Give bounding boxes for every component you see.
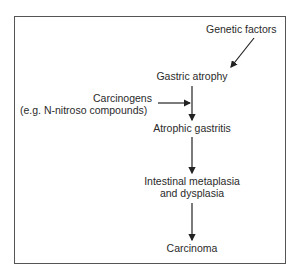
arrows — [0, 0, 300, 277]
node-gastric-atrophy: Gastric atrophy — [142, 70, 242, 82]
node-carcinogens-example: (e.g. N-nitroso compounds) — [20, 104, 147, 116]
node-carcinoma: Carcinoma — [142, 242, 242, 254]
node-carcinogens: Carcinogens — [93, 92, 152, 104]
arrow-genetic-to-atrophy — [231, 38, 254, 67]
node-intestinal-metaplasia: Intestinal metaplasia — [132, 175, 252, 187]
node-genetic-factors: Genetic factors — [206, 23, 277, 35]
node-atrophic-gastritis: Atrophic gastritis — [137, 122, 247, 134]
node-dysplasia: and dysplasia — [132, 187, 252, 199]
